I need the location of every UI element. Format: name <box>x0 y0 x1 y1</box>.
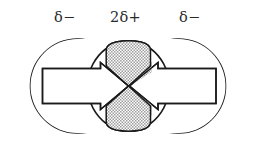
charge-label-right: δ− <box>179 10 200 25</box>
charge-label-left: δ− <box>54 10 75 25</box>
charge-label-center: 2δ+ <box>110 10 141 25</box>
partial-charge-diagram: δ− 2δ+ δ− <box>0 0 256 145</box>
